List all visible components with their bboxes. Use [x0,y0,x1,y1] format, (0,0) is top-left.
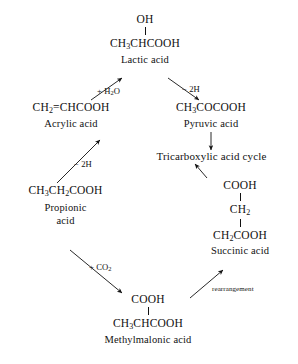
succinic-acid-bond-1 [240,193,241,201]
reagent-dehydrogenation-top-label: − 2H [182,84,200,94]
node-pyruvic-acid: CH3COCOOH Pyruvic acid [158,100,264,130]
node-acrylic-acid: CH2=CHCOOH Acrylic acid [16,100,126,130]
propionic-acid-label-line2: acid [8,214,123,227]
tca-cycle-label: Tricarboxylic acid cycle [139,150,284,163]
propionic-acid-formula: CH3CH2COOH [8,183,123,199]
node-tricarboxylic-acid-cycle: Tricarboxylic acid cycle [139,150,284,163]
lactic-acid-label: Lactic acid [95,54,195,67]
propionic-acid-label-line1: Propionic [8,201,123,214]
reaction-pathway-diagram: OH CH3CHCOOH Lactic acid CH2=CHCOOH Acry… [0,0,298,364]
lactic-acid-bond [145,27,146,35]
reagent-rearrangement-label: rearrangement [212,285,254,293]
node-propionic-acid: CH3CH2COOH Propionic acid [8,183,123,227]
succinic-acid-bond-2 [240,219,241,227]
succinic-acid-label: Succinic acid [190,245,290,258]
pyruvic-acid-label: Pyruvic acid [158,118,264,131]
node-succinic-acid: COOH CH2 CH2COOH Succinic acid [190,178,290,258]
arrow-succinic-to-tca [195,164,207,178]
succinic-acid-line3: CH2COOH [190,228,290,244]
methylmalonic-acid-label: Methylmalonic acid [85,334,211,347]
succinic-acid-line2: CH2 [190,202,290,218]
reagent-carboxylation-label: + CO2 [89,262,112,272]
acrylic-acid-label: Acrylic acid [16,118,126,131]
methylmalonic-acid-bond [148,307,149,315]
acrylic-acid-formula: CH2=CHCOOH [16,100,126,116]
node-lactic-acid: OH CH3CHCOOH Lactic acid [95,12,195,66]
reagent-dehydrogenation-left-label: − 2H [74,159,92,169]
reagent-hydration-label: + H2O [97,86,120,96]
succinic-acid-line1: COOH [190,178,290,192]
lactic-acid-formula: CH3CHCOOH [95,36,195,52]
node-methylmalonic-acid: COOH CH3CHCOOH Methylmalonic acid [85,292,211,346]
methylmalonic-acid-formula: CH3CHCOOH [85,316,211,332]
pyruvic-acid-formula: CH3COCOOH [158,100,264,116]
methylmalonic-acid-substituent: COOH [85,292,211,306]
lactic-acid-substituent: OH [95,12,195,26]
